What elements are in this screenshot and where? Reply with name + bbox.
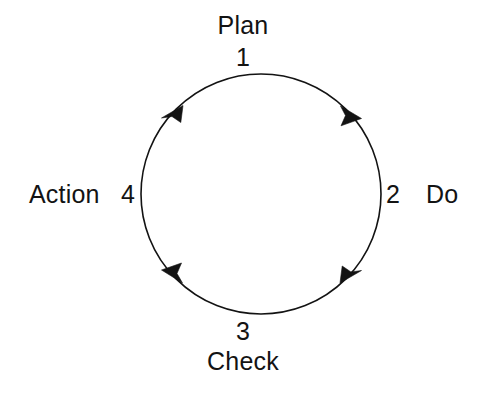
step-number-4: 4 — [121, 182, 135, 207]
step-number-2: 2 — [386, 182, 400, 207]
step-number-3: 3 — [0, 319, 486, 344]
step-number-1: 1 — [0, 45, 486, 70]
step-label-action: Action — [29, 182, 100, 207]
pdca-cycle-diagram: Plan 1 2 Do 3 Check Action 4 — [0, 0, 486, 394]
step-label-plan: Plan — [0, 13, 486, 38]
step-label-check: Check — [0, 349, 486, 374]
arrow-action-to-plan-icon — [162, 106, 184, 123]
step-label-do: Do — [426, 182, 458, 207]
arrow-do-to-check-icon — [340, 266, 362, 283]
